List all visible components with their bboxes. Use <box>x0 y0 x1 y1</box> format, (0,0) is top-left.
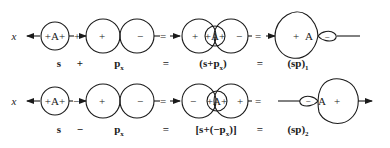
row1-combo-left: + <box>192 30 198 42</box>
row2-label-eq1: = <box>163 123 169 135</box>
row2-label-p: px <box>114 123 124 138</box>
row1-op1: + <box>74 30 80 42</box>
row2-hybrid-minus: − <box>305 96 310 106</box>
row1-op3: = <box>255 30 261 42</box>
row1-label-p: px <box>114 57 124 72</box>
row1-sp-hybrid <box>275 12 360 58</box>
x-axis-label-2: x <box>11 95 17 107</box>
row2-combo-left: − <box>190 95 196 107</box>
row1-p-plus: + <box>99 30 105 42</box>
row1-label-combo: (s+px) <box>199 57 227 72</box>
row1-combo-right: − <box>236 30 242 42</box>
row1-label-op1: + <box>77 57 83 69</box>
row2-s-sign: +A+ <box>45 95 65 107</box>
row1-p-orbital <box>86 19 160 53</box>
row2-label-combo: [s+(−px)] <box>195 123 236 138</box>
row2-label-hybrid: (sp)2 <box>287 123 308 138</box>
row2-hybrid-plus: + <box>334 95 340 107</box>
row1-hybrid-plus: + <box>293 30 299 42</box>
row2-combo-center: +A+ <box>207 95 227 107</box>
row2-op1: − <box>73 95 79 107</box>
row1-label-eq1: = <box>163 57 169 69</box>
row2-label-op1: − <box>77 123 83 135</box>
row1-combo-center: +A+ <box>205 30 225 42</box>
row1-label-eq2: = <box>257 57 263 69</box>
row2-combo-right: + <box>237 95 243 107</box>
row1-p-minus: − <box>137 30 143 42</box>
row2-label-eq2: = <box>257 123 263 135</box>
row2-p-plus: + <box>99 95 105 107</box>
sp-hybridization-diagram: x +A+ + + − = + +A+ − = + A − x +A+ − + … <box>0 0 390 148</box>
row2-p-orbital <box>86 84 160 118</box>
row1-op2: = <box>160 30 166 42</box>
row1-s-sign: +A+ <box>45 30 65 42</box>
row1-hybrid-minus: − <box>324 32 329 42</box>
row1-hybrid-nucleus: A <box>305 30 313 42</box>
row2-hybrid-nucleus: A <box>318 95 326 107</box>
row2-label-s: s <box>57 123 61 135</box>
row1-label-s: s <box>57 57 61 69</box>
x-axis-label: x <box>11 30 17 42</box>
row2-op2: = <box>160 95 166 107</box>
row1-label-hybrid: (sp)1 <box>287 57 308 72</box>
row2-op3: = <box>255 95 261 107</box>
row2-p-minus: − <box>137 95 143 107</box>
